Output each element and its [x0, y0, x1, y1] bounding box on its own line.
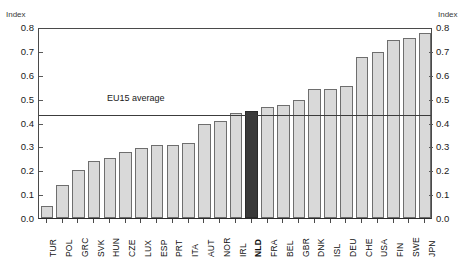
bar-swe: [403, 38, 416, 218]
y-tick-label: 0.4: [4, 119, 34, 128]
x-axis-label-svk: SVK: [97, 239, 105, 257]
bar-series: [39, 29, 431, 218]
y-tick-mark: [39, 100, 43, 101]
x-axis-label-prt: PRT: [175, 240, 183, 257]
y-tick-label: 0.5: [436, 95, 466, 104]
x-tick-mark: [109, 219, 110, 223]
bar-usa: [372, 52, 385, 218]
x-axis-label-dnk: DNK: [317, 238, 325, 257]
bar-nor: [214, 121, 227, 218]
x-tick-mark: [330, 219, 331, 223]
x-tick-mark: [219, 219, 220, 223]
x-tick-mark: [345, 219, 346, 223]
y-tick-label: 0.6: [436, 71, 466, 80]
bar-che: [356, 57, 369, 218]
x-axis-label-nor: NOR: [223, 238, 231, 258]
x-tick-mark: [314, 219, 315, 223]
y-tick-label: 0.5: [4, 95, 34, 104]
bar-hun: [104, 158, 117, 218]
y-tick-mark: [429, 195, 433, 196]
x-axis-label-fin: FIN: [396, 243, 404, 257]
y-tick-mark: [39, 171, 43, 172]
x-tick-mark: [203, 219, 204, 223]
bar-prt: [167, 145, 180, 218]
x-axis-label-che: CHE: [365, 238, 373, 257]
x-axis-label-grc: GRC: [81, 238, 89, 258]
x-axis-label-gbr: GBR: [302, 238, 310, 257]
y-tick-label: 0.1: [436, 190, 466, 199]
x-axis-label-usa: USA: [380, 239, 388, 257]
x-axis-labels: TURPOLGRCSVKHUNCZELUXESPPRTITAAUTNORIRLN…: [38, 219, 432, 261]
bar-jpn: [419, 33, 432, 218]
plot-area: EU15 average: [38, 28, 432, 219]
y-tick-label: 0.0: [436, 214, 466, 223]
x-tick-mark: [408, 219, 409, 223]
y-tick-mark: [429, 76, 433, 77]
x-tick-mark: [125, 219, 126, 223]
bar-gbr: [293, 100, 306, 218]
bar-fin: [387, 40, 400, 218]
y-tick-label: 0.1: [4, 190, 34, 199]
x-tick-mark: [251, 219, 252, 223]
y-tick-mark: [39, 147, 43, 148]
x-axis-label-jpn: JPN: [428, 240, 436, 257]
bar-nld: [245, 111, 258, 218]
bar-ita: [182, 143, 195, 218]
y-axis-labels-right: 0.80.70.60.50.40.30.20.10.0: [436, 0, 466, 261]
x-axis-label-deu: DEU: [349, 238, 357, 257]
y-tick-mark: [39, 52, 43, 53]
x-tick-mark: [424, 219, 425, 223]
x-tick-mark: [361, 219, 362, 223]
x-tick-mark: [298, 219, 299, 223]
x-axis-label-cze: CZE: [128, 239, 136, 257]
bar-dnk: [308, 89, 321, 218]
bar-deu: [340, 86, 353, 219]
x-axis-label-aut: AUT: [207, 239, 215, 257]
x-tick-mark: [235, 219, 236, 223]
x-axis-label-pol: POL: [65, 239, 73, 257]
bar-tur: [41, 206, 54, 218]
eu15-average-label: EU15 average: [107, 93, 165, 103]
y-tick-mark: [39, 124, 43, 125]
bar-lux: [135, 148, 148, 218]
x-tick-mark: [377, 219, 378, 223]
y-axis-labels-left: 0.80.70.60.50.40.30.20.10.0: [4, 0, 34, 261]
y-tick-label: 0.8: [4, 23, 34, 32]
y-tick-mark: [429, 171, 433, 172]
bar-grc: [72, 170, 85, 218]
x-axis-label-hun: HUN: [112, 238, 120, 257]
chart-title-cropped: [0, 0, 472, 7]
x-tick-mark: [393, 219, 394, 223]
y-tick-mark: [429, 52, 433, 53]
x-tick-mark: [93, 219, 94, 223]
y-tick-label: 0.2: [4, 166, 34, 175]
y-tick-label: 0.6: [4, 71, 34, 80]
chart-container: Index Index 0.80.70.60.50.40.30.20.10.0 …: [0, 0, 472, 261]
y-tick-label: 0.4: [436, 119, 466, 128]
bar-esp: [151, 145, 164, 218]
y-tick-label: 0.0: [4, 214, 34, 223]
x-axis-label-swe: SWE: [412, 237, 420, 257]
x-tick-mark: [282, 219, 283, 223]
y-tick-mark: [39, 76, 43, 77]
x-tick-mark: [62, 219, 63, 223]
x-axis-label-isl: ISL: [333, 244, 341, 257]
x-tick-mark: [156, 219, 157, 223]
bar-aut: [198, 124, 211, 218]
x-tick-mark: [267, 219, 268, 223]
bar-isl: [324, 89, 337, 218]
bar-svk: [88, 161, 101, 218]
x-tick-mark: [140, 219, 141, 223]
bar-pol: [56, 185, 69, 218]
y-tick-label: 0.8: [436, 23, 466, 32]
eu15-average-line: [39, 115, 431, 116]
y-tick-label: 0.7: [436, 47, 466, 56]
x-tick-mark: [188, 219, 189, 223]
bar-fra: [261, 107, 274, 218]
x-axis-label-fra: FRA: [270, 239, 278, 257]
bar-cze: [119, 152, 132, 218]
x-tick-mark: [172, 219, 173, 223]
bar-irl: [230, 113, 243, 218]
y-tick-label: 0.7: [4, 47, 34, 56]
bar-bel: [277, 105, 290, 218]
